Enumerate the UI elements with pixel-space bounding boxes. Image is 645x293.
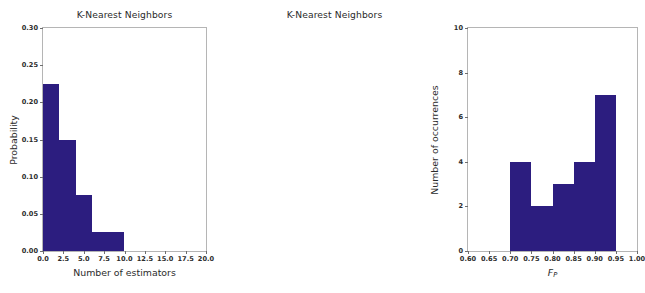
y-tick-label: 0.15 [22, 136, 38, 144]
x-tick [531, 251, 532, 254]
x-tick [468, 251, 469, 254]
x-tick-label: 0.90 [587, 255, 603, 263]
y-tick-label: 0.05 [22, 210, 38, 218]
y-tick-label: 0.20 [22, 98, 38, 106]
x-tick [186, 251, 187, 254]
chart-panel-left: K-Nearest Neighbors Number of estimators… [0, 0, 218, 293]
x-tick-label: 7.5 [98, 255, 110, 263]
y-tick [465, 206, 468, 207]
x-axis-label-right: FP [468, 267, 637, 279]
x-tick [489, 251, 490, 254]
y-tick [465, 117, 468, 118]
plot-area-left [43, 28, 206, 251]
y-tick [40, 177, 43, 178]
histogram-bar [76, 195, 92, 251]
x-tick [104, 251, 105, 254]
x-tick-label: 0.70 [502, 255, 518, 263]
y-tick [40, 65, 43, 66]
x-tick [165, 251, 166, 254]
y-tick-label: 0.25 [22, 61, 38, 69]
x-tick [84, 251, 85, 254]
chart-panel-right: K-Nearest Neighbors FP Number of occurre… [218, 0, 436, 293]
y-tick-label: 6 [458, 113, 463, 121]
x-tick-label: 0.60 [460, 255, 476, 263]
x-tick-label: 10.0 [116, 255, 132, 263]
y-axis-label-right: Number of occurrences [434, 30, 445, 140]
y-tick-label: 0.30 [22, 24, 38, 32]
x-tick [595, 251, 596, 254]
x-tick-label: 0.95 [608, 255, 624, 263]
y-tick-label: 0 [458, 247, 463, 255]
y-tick-label: 4 [458, 158, 463, 166]
x-axis-label-left: Number of estimators [43, 267, 206, 278]
x-tick-label: 0.0 [37, 255, 49, 263]
x-tick-label: 0.80 [544, 255, 560, 263]
x-tick-label: 0.75 [523, 255, 539, 263]
y-axis-label-right-text: Number of occurrences [429, 85, 440, 195]
x-tick [510, 251, 511, 254]
histogram-bar [510, 162, 531, 251]
histogram-bar [59, 140, 75, 252]
x-tick [63, 251, 64, 254]
y-tick [40, 28, 43, 29]
x-tick [206, 251, 207, 254]
x-tick [637, 251, 638, 254]
y-tick [40, 102, 43, 103]
x-tick-label: 17.5 [177, 255, 193, 263]
histogram-bar [595, 95, 616, 251]
y-tick [40, 140, 43, 141]
y-tick-label: 10 [454, 24, 463, 32]
x-tick-label: 20.0 [198, 255, 214, 263]
x-axis-label-subscript: P [553, 271, 557, 279]
x-tick-label: 12.5 [137, 255, 153, 263]
y-tick-label: 8 [458, 69, 463, 77]
x-tick-label: 15.0 [157, 255, 173, 263]
y-tick-label: 0.00 [22, 247, 38, 255]
x-tick-label: 2.5 [58, 255, 70, 263]
x-tick [616, 251, 617, 254]
histogram-bar [92, 232, 125, 251]
histogram-bar [43, 84, 59, 251]
y-tick [465, 73, 468, 74]
histogram-bar [531, 206, 552, 251]
x-tick-label: 0.65 [481, 255, 497, 263]
y-tick-label: 0.10 [22, 173, 38, 181]
x-tick [553, 251, 554, 254]
y-tick [465, 28, 468, 29]
y-tick [465, 251, 468, 252]
histogram-bar [574, 162, 595, 251]
plot-axes-left: Number of estimators Probability 0.02.55… [42, 27, 207, 252]
histogram-bar [553, 184, 574, 251]
y-tick [465, 162, 468, 163]
plot-axes-right: FP Number of occurrences 0.600.650.700.7… [467, 27, 638, 252]
plot-area-right [468, 28, 637, 251]
x-tick-label: 5.0 [78, 255, 90, 263]
y-tick [40, 251, 43, 252]
x-tick [145, 251, 146, 254]
y-tick-label: 2 [458, 202, 463, 210]
x-tick-label: 0.85 [565, 255, 581, 263]
x-tick-label: 1.00 [629, 255, 645, 263]
chart-title-right: K-Nearest Neighbors [249, 9, 420, 20]
x-tick [574, 251, 575, 254]
y-axis-label-left-text: Probability [8, 115, 19, 165]
x-tick [43, 251, 44, 254]
y-tick [40, 214, 43, 215]
x-tick [125, 251, 126, 254]
chart-title-left: K-Nearest Neighbors [42, 9, 207, 20]
